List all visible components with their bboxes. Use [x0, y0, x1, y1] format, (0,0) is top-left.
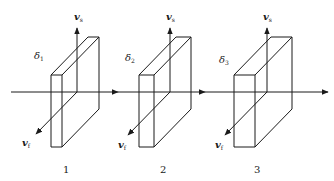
vs-label: vs	[74, 11, 83, 23]
slab-diagram: vs vf δ1 1 vs vf δ2 2 vs vf δ3 3	[0, 0, 334, 181]
vs-label: vs	[166, 11, 175, 23]
slab-panel-3: vs vf δ3 3	[215, 11, 292, 175]
slab-front-face	[234, 75, 255, 147]
vf-arrow	[128, 92, 170, 135]
thickness-label: δ1	[34, 50, 44, 62]
vf-label: vf	[215, 139, 224, 151]
panel-number: 2	[160, 164, 166, 175]
vf-arrow	[36, 92, 77, 134]
thickness-label: δ2	[125, 52, 135, 64]
slab-panel-1: vs vf δ1 1	[22, 11, 99, 175]
vf-label: vf	[118, 139, 127, 151]
vf-arrow	[225, 92, 267, 135]
vs-label: vs	[263, 11, 272, 23]
panel-number: 3	[254, 164, 260, 175]
slab-panel-2: vs vf δ2 2	[118, 11, 191, 175]
slab-front-face	[51, 75, 62, 147]
vf-label: vf	[22, 137, 31, 149]
thickness-label: δ3	[219, 54, 229, 66]
panel-number: 1	[63, 164, 69, 175]
